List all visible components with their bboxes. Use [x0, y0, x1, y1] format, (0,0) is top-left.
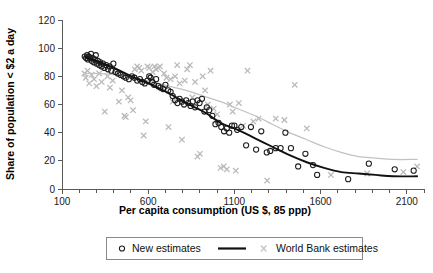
data-point-world-bank [128, 98, 133, 103]
data-point-new-estimate [259, 129, 264, 134]
y-tick-label: 20 [44, 155, 56, 166]
data-point-world-bank [224, 167, 229, 172]
legend-label-new-estimates: New estimates [132, 242, 201, 254]
data-point-world-bank [107, 85, 112, 90]
data-point-world-bank [292, 82, 297, 87]
data-point-new-estimate [254, 147, 259, 152]
y-tick-label: 0 [49, 184, 55, 195]
data-point-world-bank [202, 88, 207, 93]
data-point-world-bank [236, 100, 241, 105]
data-point-new-estimate [346, 177, 351, 182]
world-bank-fit-curve [85, 73, 417, 159]
x-tick-label: 1600 [309, 196, 332, 207]
data-point-world-bank [83, 75, 88, 80]
data-point-world-bank [192, 79, 197, 84]
y-tick-label: 80 [44, 71, 56, 82]
y-tick-label: 100 [38, 43, 55, 54]
data-point-world-bank [182, 78, 187, 83]
y-axis-ticks: 020406080100120 [38, 15, 62, 195]
data-point-new-estimate [288, 146, 293, 151]
data-point-new-estimate [248, 124, 253, 129]
data-point-world-bank [174, 62, 179, 67]
data-point-world-bank [116, 99, 121, 104]
data-point-new-estimate [154, 77, 159, 82]
data-point-world-bank [119, 88, 124, 93]
data-point-world-bank [123, 114, 128, 119]
legend-label-world-bank: World Bank estimates [276, 242, 378, 254]
fit-line-world-bank [85, 73, 417, 159]
data-point-world-bank [208, 68, 213, 73]
data-point-world-bank [273, 116, 278, 121]
data-point-new-estimate [366, 161, 371, 166]
data-point-world-bank [251, 119, 256, 124]
data-point-world-bank [99, 79, 104, 84]
data-point-world-bank [245, 68, 250, 73]
data-point-world-bank [304, 126, 309, 131]
chart-legend: New estimates World Bank estimates [106, 237, 378, 259]
y-axis-title: Share of population < $2 a day [4, 28, 16, 180]
data-point-world-bank [141, 133, 146, 138]
data-point-world-bank [401, 169, 406, 174]
new-estimates-fit-curve [85, 57, 417, 177]
data-point-new-estimate [411, 168, 416, 173]
scatter-plot: Share of population < $2 a day 020406080… [0, 0, 433, 273]
data-point-new-estimate [303, 151, 308, 156]
data-point-new-estimate [392, 167, 397, 172]
fit-line-new-estimates [85, 57, 417, 177]
data-point-world-bank [179, 137, 184, 142]
new-estimates-points [82, 51, 416, 182]
data-point-world-bank [130, 107, 135, 112]
x-tick-label: 100 [54, 196, 71, 207]
data-point-world-bank [157, 64, 162, 69]
data-point-world-bank [102, 109, 107, 114]
x-tick-label: 2100 [396, 196, 419, 207]
data-point-world-bank [139, 68, 144, 73]
data-point-world-bank [166, 124, 171, 129]
data-point-world-bank [143, 119, 148, 124]
data-point-world-bank [282, 117, 287, 122]
chart-figure: Share of population < $2 a day 020406080… [0, 0, 433, 273]
data-point-new-estimate [111, 61, 116, 66]
data-point-world-bank [197, 151, 202, 156]
data-point-world-bank [110, 78, 115, 83]
y-tick-label: 120 [38, 15, 55, 26]
data-point-world-bank [200, 74, 205, 79]
data-point-new-estimate [296, 164, 301, 169]
y-tick-label: 40 [44, 127, 56, 138]
data-point-world-bank [94, 83, 99, 88]
data-point-new-estimate [315, 172, 320, 177]
data-point-world-bank [264, 178, 269, 183]
data-point-new-estimate [244, 143, 249, 148]
data-point-world-bank [230, 109, 235, 114]
world-bank-points [82, 62, 420, 183]
data-point-new-estimate [227, 130, 232, 135]
data-point-world-bank [172, 74, 177, 79]
data-point-world-bank [233, 168, 238, 173]
data-point-world-bank [328, 172, 333, 177]
data-point-new-estimate [213, 122, 218, 127]
data-point-world-bank [177, 81, 182, 86]
x-axis-title: Per capita consumption (US $, 85 ppp) [119, 204, 311, 216]
y-tick-label: 60 [44, 99, 56, 110]
